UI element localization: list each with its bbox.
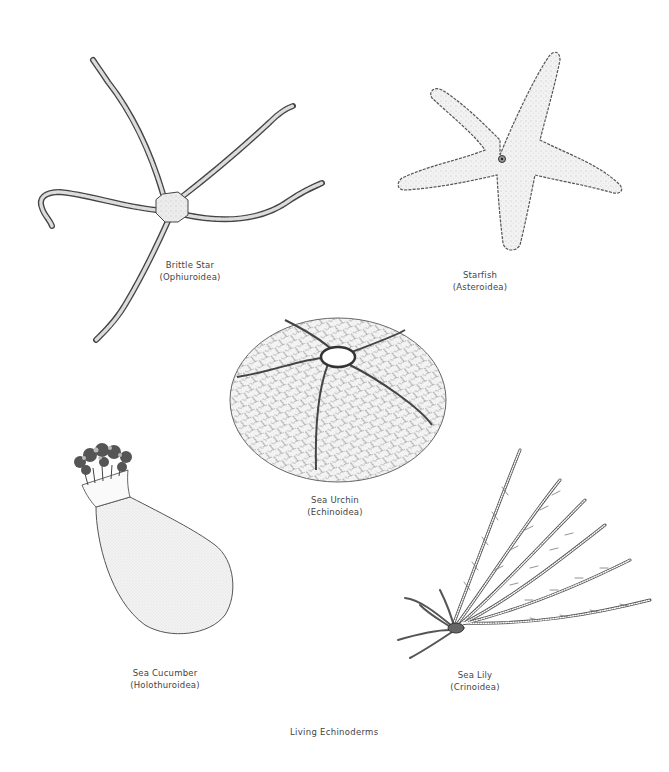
illustrations	[0, 0, 669, 772]
caption-brittle-star: Brittle Star (Ophiuroidea)	[150, 259, 230, 283]
echinoderm-plate: Brittle Star (Ophiuroidea) Starfish (Ast…	[0, 0, 669, 772]
sea-cucumber-class-name: (Holothuroidea)	[115, 679, 215, 691]
plate-title: Living Echinoderms	[290, 727, 378, 737]
sea-lily-drawing	[398, 450, 650, 658]
brittle-star-class-name: (Ophiuroidea)	[150, 271, 230, 283]
starfish-class-name: (Asteroidea)	[440, 281, 520, 293]
caption-starfish: Starfish (Asteroidea)	[440, 269, 520, 293]
brittle-star-drawing	[41, 60, 322, 340]
sea-lily-common-name: Sea Lily	[430, 669, 520, 681]
caption-sea-cucumber: Sea Cucumber (Holothuroidea)	[115, 667, 215, 691]
sea-lily-class-name: (Crinoidea)	[430, 681, 520, 693]
starfish-common-name: Starfish	[440, 269, 520, 281]
caption-sea-lily: Sea Lily (Crinoidea)	[430, 669, 520, 693]
sea-urchin-drawing	[230, 318, 446, 482]
caption-sea-urchin: Sea Urchin (Echinoidea)	[290, 494, 380, 518]
sea-cucumber-common-name: Sea Cucumber	[115, 667, 215, 679]
starfish-drawing	[398, 52, 622, 250]
sea-urchin-common-name: Sea Urchin	[290, 494, 380, 506]
sea-urchin-class-name: (Echinoidea)	[290, 506, 380, 518]
brittle-star-common-name: Brittle Star	[150, 259, 230, 271]
sea-cucumber-drawing	[74, 443, 233, 634]
